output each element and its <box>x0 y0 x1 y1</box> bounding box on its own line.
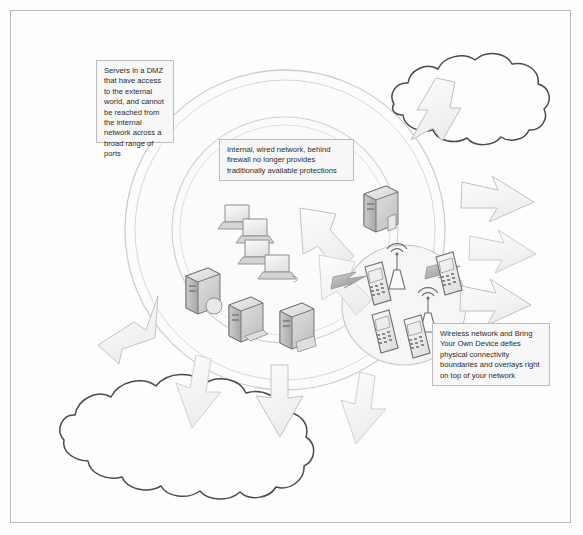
server-icon <box>364 186 398 232</box>
callout-wireless: Wireless network and Bring Your Own Devi… <box>432 323 550 386</box>
server-icon <box>229 297 268 342</box>
diagram-canvas: Servers in a DMZ that have access to the… <box>0 0 583 535</box>
traffic-flow-arrow <box>460 279 531 325</box>
traffic-flow-arrow <box>461 176 534 222</box>
callout-dmz: Servers in a DMZ that have access to the… <box>96 60 174 143</box>
server-icon <box>186 268 222 314</box>
traffic-flow-arrow <box>341 372 386 444</box>
callout-internal: Internal, wired network, behind firewall… <box>219 139 354 181</box>
server-icon <box>280 303 316 352</box>
network-diagram-artwork <box>0 0 583 535</box>
traffic-flow-arrow <box>469 230 536 273</box>
